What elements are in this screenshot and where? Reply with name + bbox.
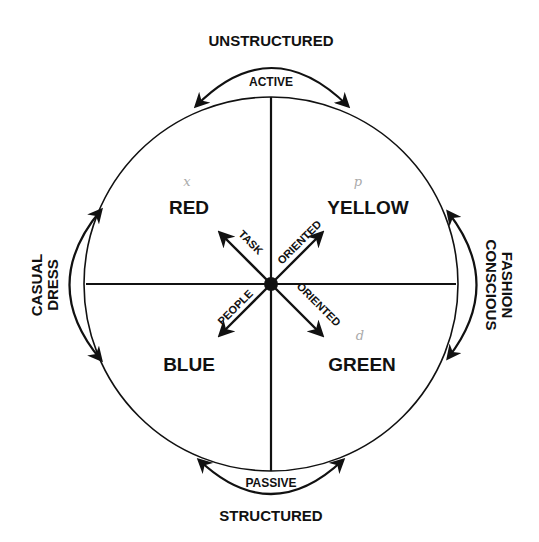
diag-label-oriented-up: ORIENTED bbox=[275, 218, 324, 267]
annotation-red: x bbox=[183, 174, 191, 189]
axis-label-structured: STRUCTURED bbox=[219, 507, 322, 524]
quadrant-green: GREEN bbox=[328, 354, 396, 375]
diag-label-oriented-down: ORIENTED bbox=[294, 280, 343, 329]
quadrant-red: RED bbox=[169, 197, 209, 218]
axis-label-dress: DRESS bbox=[44, 259, 61, 311]
axis-label-casual: CASUAL bbox=[28, 254, 45, 317]
annotation-yellow: p bbox=[354, 174, 363, 189]
quadrant-yellow: YELLOW bbox=[327, 197, 408, 218]
arc-label-active: ACTIVE bbox=[249, 75, 293, 89]
quadrant-blue: BLUE bbox=[163, 354, 215, 375]
axis-label-fashion: FASHION bbox=[499, 252, 516, 319]
arc-label-passive: PASSIVE bbox=[245, 476, 296, 490]
personality-color-diagram: TASK ORIENTED PEOPLE ORIENTED RED YELLOW… bbox=[0, 0, 539, 542]
annotation-green: d bbox=[356, 328, 364, 343]
axis-label-conscious: CONSCIOUS bbox=[483, 240, 500, 331]
axis-label-unstructured: UNSTRUCTURED bbox=[209, 32, 334, 49]
